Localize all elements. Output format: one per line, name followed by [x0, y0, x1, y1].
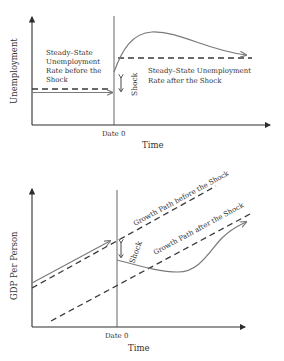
after-label: Steady–State Unemployment Rate after the…: [148, 67, 251, 85]
before-label-line: Rate before the: [46, 67, 101, 75]
diagram-canvas: Unemployment Steady–State Unemployment R…: [0, 0, 284, 361]
y-axis-label: Unemployment: [9, 38, 19, 104]
gdp-chart: GDP Per Person Shock Growth Path before …: [9, 169, 250, 353]
gdp-before-solid: [32, 241, 110, 283]
growth-path-after-dashed: [51, 214, 250, 321]
shock-label: Shock: [130, 72, 139, 96]
before-label-line: Unemployment: [46, 58, 100, 66]
date-zero-label: Date 0: [102, 130, 125, 138]
x-axis-label: Time: [142, 140, 163, 150]
before-label-line: Shock: [46, 76, 68, 84]
x-axis-label: Time: [128, 343, 149, 353]
y-axis-label: GDP Per Person: [9, 231, 19, 300]
shock-label: Shock: [127, 239, 144, 264]
unemployment-chart: Unemployment Steady–State Unemployment R…: [9, 16, 270, 150]
after-label-line: Steady–State Unemployment: [148, 67, 251, 75]
before-label: Steady–State Unemployment Rate before th…: [46, 49, 101, 84]
unemployment-curve: [114, 32, 246, 72]
after-label-line: Rate after the Shock: [148, 77, 222, 85]
before-label-line: Steady–State: [46, 49, 93, 57]
date-zero-label: Date 0: [105, 332, 128, 340]
